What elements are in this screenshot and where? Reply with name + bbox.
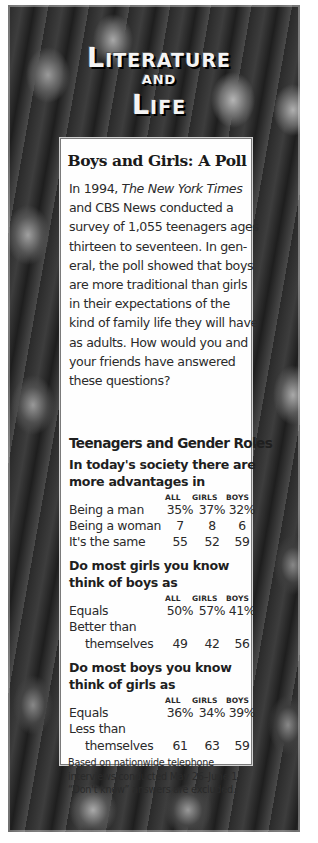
col-header-girls: GIRLS [192, 594, 217, 603]
question-2: Do most girls you know think of boys as [69, 557, 229, 591]
col-header-girls: GIRLS [192, 493, 217, 502]
table-row: themselves 49 42 56 [61, 636, 253, 652]
poll-sidebar-box: Boys and Girls: A Poll In 1994, The New … [60, 138, 252, 765]
col-header-boys: BOYS [226, 696, 249, 705]
col-header-boys: BOYS [226, 594, 249, 603]
table-row: Equals 36% 34% 39% [61, 705, 253, 721]
masthead-life: LIFE [0, 89, 318, 120]
col-header-all: ALL [165, 594, 181, 603]
col-header-boys: BOYS [226, 493, 249, 502]
masthead-literature: LITERATURE [0, 42, 318, 73]
table-row: Being a man 35% 37% 32% [61, 502, 253, 518]
question-3: Do most boys you know think of girls as [69, 659, 231, 693]
table-row: Less than [61, 721, 253, 737]
table-row: It's the same 55 52 59 [61, 534, 253, 550]
sidebar-title: Boys and Girls: A Poll [61, 151, 253, 170]
masthead-and: AND [0, 72, 318, 87]
table-row: Being a woman 7 8 6 [61, 518, 253, 534]
col-header-all: ALL [165, 493, 181, 502]
table-title: Teenagers and Gender Roles [69, 435, 272, 451]
col-header-all: ALL [165, 696, 181, 705]
table-row: Equals 50% 57% 41% [61, 603, 253, 619]
intro-paragraph: In 1994, The New York Times and CBS News… [69, 179, 253, 390]
table-row: Better than [61, 619, 253, 635]
table-row: themselves 61 63 59 [61, 738, 253, 754]
publication-name: The New York Times [122, 181, 243, 196]
question-1: In today's society there are more advant… [69, 456, 255, 490]
col-header-girls: GIRLS [192, 696, 217, 705]
